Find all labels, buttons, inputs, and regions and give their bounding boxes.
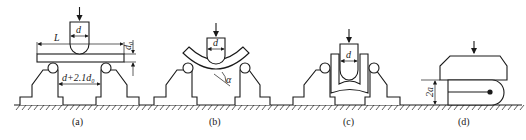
press-block <box>440 56 507 80</box>
pin-dot <box>487 89 492 94</box>
bend-test-diagram: d L d₀ d+2.1d₀ (a) d α (b) <box>0 0 526 140</box>
caption-d: (d) <box>458 116 470 128</box>
label-2a: 2a <box>424 87 435 97</box>
label-L: L <box>53 32 60 43</box>
left-roller <box>48 63 58 73</box>
label-alpha: α <box>226 74 232 85</box>
caption-a: (a) <box>72 116 83 128</box>
label-support-gap: d+2.1d₀ <box>62 72 95 83</box>
label-d0: d₀ <box>122 41 133 50</box>
specimen-bar <box>37 54 124 62</box>
right-support <box>96 70 139 105</box>
panel-b: d α (b) <box>154 23 270 128</box>
panel-c: d (c) <box>293 29 400 128</box>
right-roller <box>101 63 111 73</box>
caption-b: (b) <box>209 116 221 128</box>
caption-c: (c) <box>343 116 354 128</box>
panel-a: d L d₀ d+2.1d₀ (a) <box>20 7 139 128</box>
left-support <box>20 70 63 105</box>
ground-hatch <box>14 105 524 110</box>
panel-d: 2a (d) <box>421 41 507 128</box>
